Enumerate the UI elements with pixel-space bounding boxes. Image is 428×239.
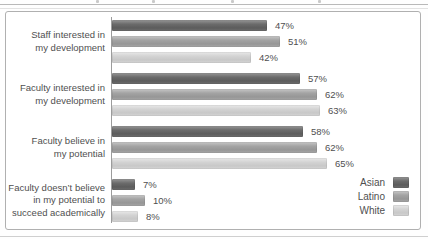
bar-asian: [112, 20, 267, 31]
legend-label: White: [359, 205, 385, 216]
bar-latino: [112, 89, 317, 100]
bar-row: 47%: [112, 20, 420, 31]
bar-stack: 47%51%42%: [112, 20, 420, 63]
chart-figure: Staff interested inmy development47%51%4…: [0, 0, 428, 239]
legend-label: Latino: [358, 191, 385, 202]
bar-white: [112, 105, 320, 116]
category-label: Faculty interested inmy development: [6, 82, 112, 107]
cropped-title-remnant: [96, 0, 99, 3]
value-label: 10%: [153, 195, 172, 206]
value-label: 65%: [335, 158, 354, 169]
bar-stack: 57%62%63%: [112, 73, 420, 116]
value-label: 8%: [146, 211, 160, 222]
top-divider: [0, 4, 428, 9]
bar-group: Faculty believe inmy potential58%62%65%: [6, 126, 420, 169]
bar-white: [112, 52, 251, 63]
category-label: Faculty doesn’t believein my potential t…: [6, 182, 112, 220]
value-label: 62%: [325, 142, 344, 153]
bar-asian: [112, 179, 135, 190]
bar-latino: [112, 142, 317, 153]
bar-white: [112, 211, 138, 222]
legend-item-latino: Latino: [358, 191, 409, 202]
legend-item-asian: Asian: [358, 177, 409, 188]
bar-row: 62%: [112, 89, 420, 100]
cropped-title-remnant: [231, 0, 234, 3]
bar-group: Staff interested inmy development47%51%4…: [6, 20, 420, 63]
chart-container: Staff interested inmy development47%51%4…: [5, 11, 421, 230]
legend-item-white: White: [358, 205, 409, 216]
bar-row: 62%: [112, 142, 420, 153]
value-label: 7%: [143, 179, 157, 190]
legend-swatch-latino: [393, 191, 409, 202]
bar-row: 58%: [112, 126, 420, 137]
bar-row: 63%: [112, 105, 420, 116]
value-label: 51%: [288, 36, 307, 47]
value-label: 42%: [259, 52, 278, 63]
bar-row: 57%: [112, 73, 420, 84]
legend: AsianLatinoWhite: [358, 177, 409, 216]
bar-latino: [112, 195, 145, 206]
value-label: 63%: [328, 105, 347, 116]
value-label: 58%: [311, 126, 330, 137]
value-label: 57%: [308, 73, 327, 84]
legend-swatch-white: [393, 205, 409, 216]
bar-latino: [112, 36, 280, 47]
legend-label: Asian: [360, 177, 385, 188]
category-label: Staff interested inmy development: [6, 29, 112, 54]
bar-asian: [112, 126, 303, 137]
category-label: Faculty believe inmy potential: [6, 135, 112, 160]
bar-white: [112, 158, 327, 169]
bar-row: 51%: [112, 36, 420, 47]
cropped-title-remnant: [152, 0, 155, 3]
legend-swatch-asian: [393, 177, 409, 188]
value-label: 62%: [325, 89, 344, 100]
bottom-divider: [0, 236, 428, 237]
bar-row: 42%: [112, 52, 420, 63]
bar-stack: 58%62%65%: [112, 126, 420, 169]
bar-asian: [112, 73, 300, 84]
cropped-title-remnant: [318, 0, 321, 3]
bar-row: 65%: [112, 158, 420, 169]
value-label: 47%: [275, 20, 294, 31]
bar-group: Faculty interested inmy development57%62…: [6, 73, 420, 116]
